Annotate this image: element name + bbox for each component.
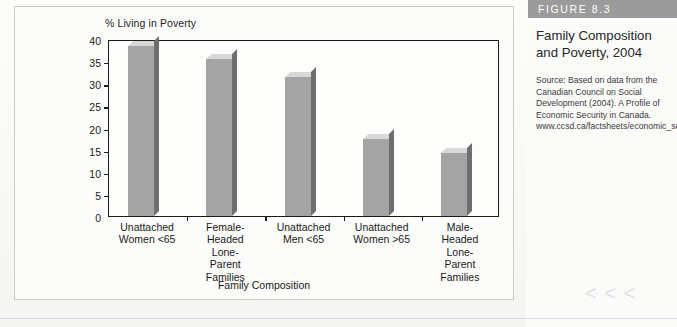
y-axis-tick-mark (104, 130, 109, 131)
chart-bar-face (128, 46, 154, 216)
figure-number-band: FIGURE 8.3 (528, 0, 677, 18)
x-axis-category-label: Unattached Women >65 (343, 221, 421, 246)
y-axis-tick-mark (104, 85, 109, 86)
y-axis-tick-label: 30 (89, 79, 101, 91)
y-axis-tick-label: 40 (89, 35, 101, 47)
bar-chart: % Living in Poverty 0510152025303540 Una… (15, 7, 513, 299)
chart-bar-face (206, 59, 232, 216)
x-axis-category-label: Male- Headed Lone- Parent Families (421, 221, 499, 283)
figure-title: Family Composition and Poverty, 2004 (536, 27, 672, 61)
y-axis-tick-mark (104, 63, 109, 64)
x-axis-title: Family Composition (15, 279, 513, 291)
plot-area: 0510152025303540 (108, 40, 499, 217)
figure-panel: % Living in Poverty 0510152025303540 Una… (14, 6, 514, 300)
chart-bar-side (311, 67, 316, 216)
chart-bar (206, 59, 232, 216)
chart-bar (363, 139, 389, 216)
chart-bar-side (467, 143, 472, 216)
chart-bar-face (285, 77, 311, 216)
x-axis-category-label: Female- Headed Lone- Parent Families (186, 221, 264, 283)
y-axis-tick-label: 0 (95, 212, 101, 224)
figure-number-label: FIGURE 8.3 (538, 3, 611, 15)
figure-sidebar: FIGURE 8.3 Family Composition and Povert… (526, 0, 677, 327)
chart-bar-face (441, 153, 467, 216)
y-axis-tick-label: 25 (89, 101, 101, 113)
chart-bar (285, 77, 311, 216)
y-axis-tick-label: 35 (89, 57, 101, 69)
y-axis-tick-mark (104, 174, 109, 175)
page-bottom-rule (0, 318, 677, 319)
chevron-left-icons: < < < (585, 282, 636, 305)
y-axis-tick-label: 20 (89, 124, 101, 136)
y-axis-tick-label: 5 (95, 190, 101, 202)
chart-bar-side (232, 49, 237, 216)
y-axis-tick-label: 15 (89, 146, 101, 158)
chart-bar (441, 153, 467, 216)
chart-bar (128, 46, 154, 216)
y-axis-tick-label: 10 (89, 168, 101, 180)
x-axis-category-label: Unattached Women <65 (108, 221, 186, 246)
figure-source-note: Source: Based on data from the Canadian … (536, 75, 672, 133)
chart-bar-face (363, 139, 389, 216)
x-axis-category-label: Unattached Men <65 (264, 221, 342, 246)
y-axis-tick-mark (104, 152, 109, 153)
chart-bar-side (389, 129, 394, 216)
y-axis-tick-mark (104, 196, 109, 197)
y-axis-tick-mark (104, 107, 109, 108)
y-axis-title: % Living in Poverty (105, 17, 196, 29)
chart-bar-side (154, 36, 159, 216)
scanned-page: % Living in Poverty 0510152025303540 Una… (0, 0, 677, 327)
